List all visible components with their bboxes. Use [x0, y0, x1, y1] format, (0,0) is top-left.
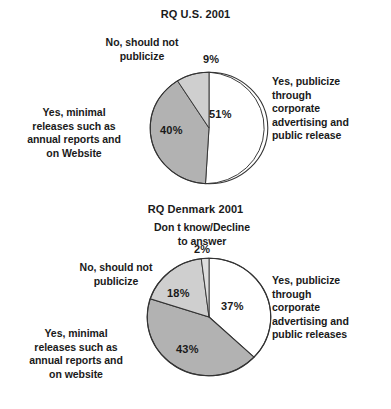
chart-rq-denmark-2001: RQ Denmark 2001 Don t know/Declineto ans… — [0, 200, 391, 409]
value-dk-minimal-releases: 43% — [176, 343, 199, 355]
chart-rq-us-2001: RQ U.S. 2001 No, should notpublicize Yes… — [0, 0, 391, 200]
label-us-yes-publicize: Yes, publicizethroughcorporateadvertisin… — [272, 75, 390, 143]
value-us-no-publicize: 9% — [203, 53, 219, 65]
value-dk-no-publicize: 18% — [167, 287, 190, 299]
chart-title-denmark: RQ Denmark 2001 — [0, 203, 391, 216]
pie-slice-us-yes-publicize — [205, 72, 264, 183]
value-us-minimal-releases: 40% — [160, 124, 183, 136]
label-dk-yes-publicize: Yes, publicizethroughcorporateadvertisin… — [272, 274, 390, 342]
value-dk-yes-publicize: 37% — [221, 300, 244, 312]
label-us-no-publicize: No, should notpublicize — [84, 36, 200, 63]
label-us-minimal-releases: Yes, minimalreleases such asannual repor… — [6, 106, 142, 160]
value-us-yes-publicize: 51% — [209, 108, 232, 120]
label-dk-minimal-releases: Yes, minimalreleases such asannual repor… — [8, 327, 144, 381]
value-dk-dont-know: 2% — [194, 243, 210, 255]
chart-title-us: RQ U.S. 2001 — [0, 8, 391, 21]
label-dk-no-publicize: No, should notpublicize — [55, 261, 177, 288]
